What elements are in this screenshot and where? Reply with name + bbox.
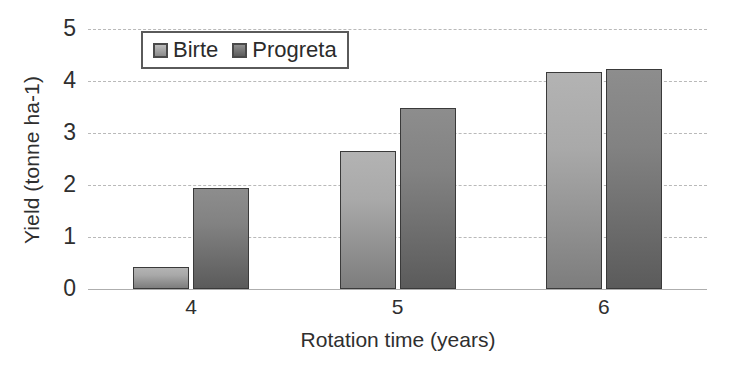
y-tick-label: 5 [36, 17, 76, 40]
x-tick-label: 6 [564, 296, 644, 317]
bar-progreta-4 [193, 188, 249, 289]
bar-progreta-5 [400, 108, 456, 289]
gridline [88, 289, 707, 290]
legend-entry-progreta: Progreta [232, 37, 336, 63]
legend-label-birte: Birte [173, 37, 218, 63]
y-tick-label: 3 [36, 121, 76, 144]
bar-birte-6 [546, 72, 602, 289]
x-axis-title: Rotation time (years) [88, 328, 708, 352]
legend-swatch-icon-progreta [232, 43, 247, 58]
bar-birte-5 [340, 151, 396, 289]
bar-chart: Yield (tonne ha-1) 012345 456 Rotation t… [0, 0, 732, 365]
legend-swatch-icon-birte [153, 43, 168, 58]
y-tick-label: 2 [36, 173, 76, 196]
y-tick-label: 0 [36, 277, 76, 300]
y-tick-label: 1 [36, 225, 76, 248]
legend: Birte Progreta [141, 31, 349, 69]
legend-label-progreta: Progreta [252, 37, 336, 63]
gridline [88, 29, 707, 30]
x-tick-label: 5 [358, 296, 438, 317]
y-tick-label: 4 [36, 69, 76, 92]
bar-progreta-6 [606, 69, 662, 289]
legend-entry-birte: Birte [153, 37, 218, 63]
bar-birte-4 [133, 267, 189, 289]
x-tick-label: 4 [151, 296, 231, 317]
